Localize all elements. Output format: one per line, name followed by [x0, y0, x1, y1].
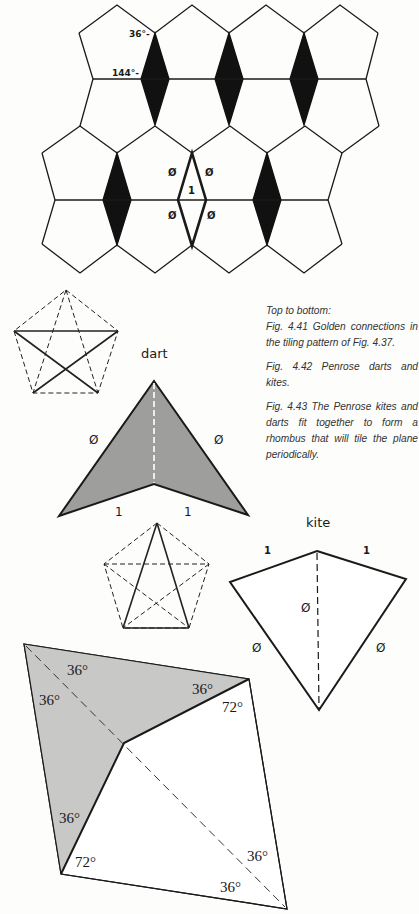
dart-shape — [59, 381, 248, 516]
phi-label-lower-left: Ø — [168, 211, 177, 221]
dart-unit-right: 1 — [184, 506, 192, 518]
angle-144-label: 144°- — [112, 69, 139, 78]
kite-dart-rhombus — [24, 644, 287, 909]
rhombus-angle-8: 36° — [220, 880, 241, 895]
caption-fig-4-42: Fig. 4.42 Penrose darts and kites. — [266, 359, 418, 391]
phi-label-upper-right: Ø — [205, 168, 214, 178]
rhombus-angle-4: 72° — [222, 700, 243, 715]
unit-label: 1 — [188, 186, 195, 196]
kite-axis-phi: Ø — [301, 602, 310, 614]
rhombus-angle-2: 36° — [39, 693, 60, 708]
pentagon-tiling — [42, 5, 379, 273]
kite-shape — [230, 551, 406, 710]
kite-unit-left: 1 — [264, 546, 271, 556]
pentagon-kite-construction — [104, 523, 209, 628]
kite-title: kite — [306, 516, 330, 529]
kite-phi-right: Ø — [376, 642, 385, 654]
dart-phi-left: Ø — [89, 434, 98, 446]
rhombus-angle-5: 36° — [59, 811, 80, 826]
angle-36-label: 36°- — [129, 30, 150, 39]
phi-label-upper-left: Ø — [168, 168, 177, 178]
dart-phi-right: Ø — [214, 434, 223, 446]
kite-phi-left: Ø — [252, 642, 261, 654]
rhombus-angle-7: 36° — [247, 849, 268, 864]
caption-fig-4-41: Fig. 4.41 Golden connections in the tili… — [266, 319, 418, 351]
phi-label-lower-right: Ø — [207, 211, 216, 221]
dart-title: dart — [141, 347, 168, 360]
figure-caption: Top to bottom: Fig. 4.41 Golden connecti… — [266, 303, 418, 471]
pentagon-dart-construction — [14, 290, 118, 393]
rhombus-angle-1: 36° — [67, 663, 88, 678]
kite-unit-right: 1 — [363, 546, 370, 556]
rhombus-angle-3: 36° — [192, 682, 213, 697]
caption-fig-4-43: Fig. 4.43 The Penrose kites and darts fi… — [266, 399, 418, 463]
rhombus-angle-6: 72° — [75, 855, 96, 870]
dart-unit-left: 1 — [115, 506, 123, 518]
caption-heading: Top to bottom: — [266, 303, 418, 319]
